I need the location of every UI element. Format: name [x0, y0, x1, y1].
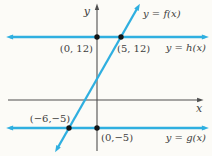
line-g-arrow-end — [202, 125, 209, 130]
point-0-12 — [94, 34, 99, 39]
point-5-12 — [118, 34, 123, 39]
point-n6-n5 — [66, 125, 71, 130]
point-0-n5 — [94, 125, 99, 130]
point-label-n6-n5: (−6,−5) — [30, 113, 71, 124]
point-label-0-n5: (0,−5) — [101, 132, 133, 143]
y-axis-arrow-end — [95, 3, 99, 10]
line-h-arrow-end — [202, 34, 209, 39]
x-axis-label: x — [196, 102, 203, 115]
point-label-5-12: (5, 12) — [117, 43, 150, 54]
label-h: y = h(x) — [165, 42, 206, 53]
line-g-arrow-start — [6, 125, 13, 130]
line-h-arrow-start — [6, 34, 13, 39]
label-f: y = f(x) — [142, 8, 181, 19]
y-axis-label: y — [83, 5, 91, 18]
point-label-0-12: (0, 12) — [60, 43, 93, 54]
function-graph-figure: yxy = f(x)y = h(x)y = g(x)(0, 12)(5, 12)… — [0, 0, 212, 156]
plot-canvas: yxy = f(x)y = h(x)y = g(x)(0, 12)(5, 12)… — [0, 0, 212, 156]
label-g: y = g(x) — [165, 132, 206, 143]
